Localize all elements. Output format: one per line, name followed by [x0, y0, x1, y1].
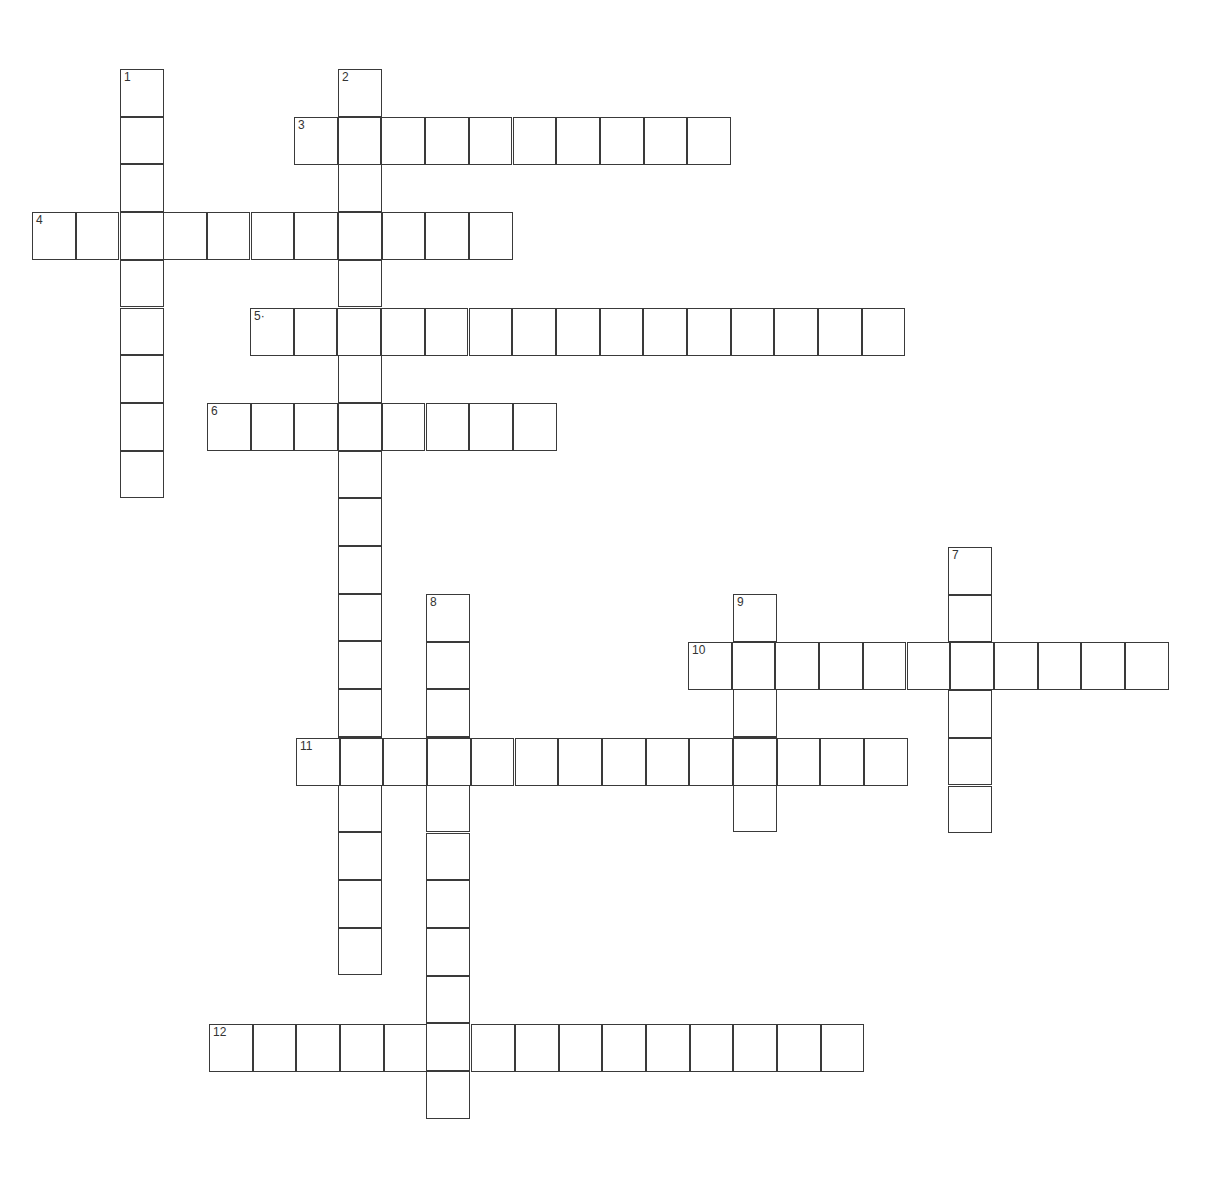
crossword-cell[interactable] [469, 212, 513, 260]
crossword-cell[interactable]: 2 [338, 69, 382, 117]
crossword-cell[interactable] [120, 164, 164, 212]
crossword-cell[interactable] [950, 642, 994, 690]
crossword-cell[interactable] [469, 308, 513, 356]
crossword-cell[interactable] [471, 738, 515, 786]
crossword-cell[interactable] [207, 212, 251, 260]
crossword-cell[interactable] [426, 976, 470, 1024]
crossword-cell[interactable]: 5· [250, 308, 294, 356]
crossword-cell[interactable] [513, 403, 557, 451]
crossword-cell[interactable] [600, 117, 644, 165]
crossword-cell[interactable] [338, 689, 382, 737]
crossword-cell[interactable] [600, 308, 644, 356]
crossword-cell[interactable]: 4 [32, 212, 76, 260]
crossword-cell[interactable] [862, 308, 906, 356]
crossword-cell[interactable] [515, 738, 559, 786]
crossword-cell[interactable] [338, 546, 382, 594]
crossword-cell[interactable] [556, 117, 600, 165]
crossword-cell[interactable] [426, 642, 470, 690]
crossword-cell[interactable] [687, 308, 731, 356]
crossword-cell[interactable] [559, 1024, 603, 1072]
crossword-cell[interactable] [120, 117, 164, 165]
crossword-cell[interactable] [820, 738, 864, 786]
crossword-cell[interactable] [382, 403, 426, 451]
crossword-cell[interactable] [381, 117, 425, 165]
crossword-cell[interactable] [471, 1024, 515, 1072]
crossword-cell[interactable] [120, 260, 164, 308]
crossword-cell[interactable] [120, 451, 164, 499]
crossword-cell[interactable]: 1 [120, 69, 164, 117]
crossword-cell[interactable] [76, 212, 120, 260]
crossword-cell[interactable] [469, 117, 513, 165]
crossword-cell[interactable] [294, 403, 338, 451]
crossword-cell[interactable] [1081, 642, 1125, 690]
crossword-cell[interactable] [819, 642, 863, 690]
crossword-cell[interactable] [646, 1024, 690, 1072]
crossword-cell[interactable] [777, 738, 821, 786]
crossword-cell[interactable] [602, 738, 646, 786]
crossword-cell[interactable]: 3 [294, 117, 338, 165]
crossword-cell[interactable] [120, 403, 164, 451]
crossword-cell[interactable] [733, 738, 777, 786]
crossword-cell[interactable] [864, 738, 908, 786]
crossword-cell[interactable] [948, 738, 992, 786]
crossword-cell[interactable]: 10 [688, 642, 732, 690]
crossword-cell[interactable] [512, 308, 556, 356]
crossword-cell[interactable] [426, 785, 470, 833]
crossword-cell[interactable] [338, 785, 382, 833]
crossword-cell[interactable] [120, 212, 164, 260]
crossword-cell[interactable] [251, 403, 295, 451]
crossword-cell[interactable] [338, 260, 382, 308]
crossword-cell[interactable] [948, 595, 992, 643]
crossword-cell[interactable] [427, 738, 471, 786]
crossword-cell[interactable] [690, 1024, 734, 1072]
crossword-cell[interactable] [775, 642, 819, 690]
crossword-cell[interactable]: 9 [733, 594, 777, 642]
crossword-cell[interactable] [425, 117, 469, 165]
crossword-cell[interactable] [163, 212, 207, 260]
crossword-cell[interactable] [426, 689, 470, 737]
crossword-cell[interactable] [381, 308, 425, 356]
crossword-cell[interactable]: 11 [296, 738, 340, 786]
crossword-cell[interactable] [733, 785, 777, 833]
crossword-cell[interactable] [1038, 642, 1082, 690]
crossword-cell[interactable] [382, 212, 426, 260]
crossword-cell[interactable] [733, 689, 777, 737]
crossword-cell[interactable] [384, 1024, 428, 1072]
crossword-cell[interactable] [643, 308, 687, 356]
crossword-cell[interactable] [338, 880, 382, 928]
crossword-cell[interactable] [426, 1071, 470, 1119]
crossword-cell[interactable] [340, 738, 384, 786]
crossword-cell[interactable] [338, 832, 382, 880]
crossword-cell[interactable] [294, 308, 338, 356]
crossword-cell[interactable] [732, 642, 776, 690]
crossword-cell[interactable] [338, 164, 382, 212]
crossword-cell[interactable] [821, 1024, 865, 1072]
crossword-cell[interactable] [294, 212, 338, 260]
crossword-cell[interactable] [338, 928, 382, 976]
crossword-cell[interactable] [425, 212, 469, 260]
crossword-cell[interactable] [994, 642, 1038, 690]
crossword-cell[interactable] [426, 928, 470, 976]
crossword-cell[interactable] [777, 1024, 821, 1072]
crossword-cell[interactable] [338, 641, 382, 689]
crossword-cell[interactable] [687, 117, 731, 165]
crossword-cell[interactable] [296, 1024, 340, 1072]
crossword-cell[interactable] [338, 403, 382, 451]
crossword-cell[interactable] [338, 355, 382, 403]
crossword-cell[interactable] [774, 308, 818, 356]
crossword-cell[interactable] [863, 642, 907, 690]
crossword-cell[interactable] [338, 212, 382, 260]
crossword-cell[interactable] [340, 1024, 384, 1072]
crossword-cell[interactable] [338, 594, 382, 642]
crossword-cell[interactable] [948, 786, 992, 834]
crossword-cell[interactable] [383, 738, 427, 786]
crossword-cell[interactable] [338, 117, 382, 165]
crossword-cell[interactable] [646, 738, 690, 786]
crossword-cell[interactable] [425, 308, 469, 356]
crossword-cell[interactable] [120, 355, 164, 403]
crossword-cell[interactable] [469, 403, 513, 451]
crossword-cell[interactable]: 8 [426, 594, 470, 642]
crossword-cell[interactable] [733, 1024, 777, 1072]
crossword-cell[interactable] [426, 1023, 470, 1071]
crossword-cell[interactable] [253, 1024, 297, 1072]
